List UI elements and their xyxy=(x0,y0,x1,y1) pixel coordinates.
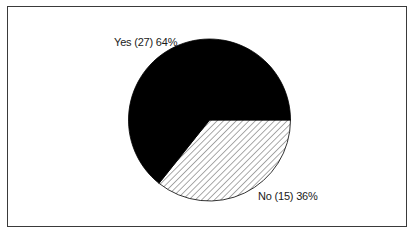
slice-label-yes: Yes (27) 64% xyxy=(114,36,177,48)
pie-chart xyxy=(0,0,413,234)
slice-label-no: No (15) 36% xyxy=(258,190,318,202)
